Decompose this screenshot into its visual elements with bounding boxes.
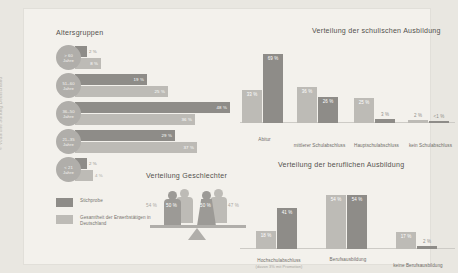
age-circle-line2: Jahre [63,114,74,119]
vocational-bar-stichprobe: 18 % [256,231,276,249]
legend-swatch-stichprobe [56,198,73,207]
vocational-bar-group: 18 % 41 % [256,189,300,249]
seesaw-fulcrum [188,228,206,240]
age-bar-stichprobe: 29 % [75,130,175,141]
age-bar-gesamtheit: 25 % [75,86,168,97]
male-value-gesamtheit: 54 % [146,203,157,208]
vocational-bar-value: 41 % [282,210,293,215]
age-bar-group: 19 % 25 % [75,74,168,98]
school-bar-gesamtheit: 3 % [375,119,395,123]
age-bar-value: 29 % [162,133,175,138]
vocational-bar-gesamtheit: 2 % [417,246,437,249]
age-bar-value: 2 % [89,49,100,54]
age-row: 48 % 36 % 36–50 Jahre [56,101,231,126]
school-chart: 33 % 69 % Abitur 36 % 26 % mittler [240,53,455,145]
school-education-panel: Verteilung der schulischen Ausbildung 33… [240,27,455,145]
age-bar-stichprobe: 48 % [75,102,230,113]
age-bar-gesamtheit: 36 % [75,114,195,125]
school-bar-group: 36 % 26 % [297,53,341,123]
school-bar-value: 69 % [268,56,279,61]
vocational-bar-value: 54 % [331,197,342,202]
infographic-card: Altersgruppen 2 % 8 % > 60 Jahre [24,9,430,264]
male-value-stichprobe: 50 % [166,203,177,208]
vocational-bar-value: 17 % [401,234,412,239]
vocational-x-label: keine Berufsausbildung [388,263,448,269]
school-bar-gesamtheit: 26 % [318,97,338,123]
school-bar-gesamtheit: <1 % [429,121,449,123]
age-bar-group: 29 % 37 % [75,130,197,154]
age-circle: 21–35 Jahre [56,129,81,154]
school-bar-gesamtheit: 69 % [263,54,283,123]
vocational-x-label: Berufsausbildung [318,257,378,263]
age-bar-value: 2 % [89,161,100,166]
vocational-bar-stichprobe: 17 % [396,232,416,249]
school-x-label: mittlerer Schulabschluss [292,143,347,149]
vocational-education-panel: Verteilung der beruflichen Ausbildung 18… [240,161,455,273]
vocational-bar-gesamtheit: 54 % [347,195,367,249]
age-bar-value: 8 % [90,61,101,66]
school-bar-group: 2 % <1 % [408,53,452,123]
copyright-notice: © Vodafone Stiftung Deutschland [0,30,3,150]
school-bar-group: 33 % 69 % [242,53,286,123]
school-bar-value: 33 % [247,92,258,97]
school-bar-group: 25 % 3 % [354,53,398,123]
gender-title: Verteilung Geschlechter [146,172,227,180]
school-bar-value: <1 % [434,114,445,119]
age-row: 19 % 25 % 51–60 Jahre [56,73,231,98]
age-groups-panel: Altersgruppen 2 % 8 % > 60 Jahre [56,29,231,169]
age-circle: 36–50 Jahre [56,101,81,126]
vocational-bar-stichprobe: 54 % [326,195,346,249]
age-circle: > 60 Jahre [56,45,81,70]
age-bar-value: 37 % [184,145,197,150]
school-x-label: kein Schulabschluss [403,143,458,149]
vocational-education-title: Verteilung der beruflichen Ausbildung [278,161,404,169]
age-bar-value: 25 % [155,89,168,94]
age-bar-value: 48 % [217,105,230,110]
vocational-bar-group: 54 % 54 % [326,189,370,249]
school-bar-stichprobe: 33 % [242,90,262,123]
age-bar-gesamtheit: 37 % [75,142,197,153]
vocational-bar-value: 2 % [423,239,431,244]
age-groups-title: Altersgruppen [56,29,103,37]
school-bar-stichprobe: 25 % [354,98,374,123]
school-bar-value: 2 % [414,113,422,118]
legend-swatch-gesamtheit [56,215,73,224]
age-circle-line2: Jahre [63,170,74,175]
vocational-x-label-main: Hochschulabschluss [257,258,300,263]
vocational-bar-value: 54 % [352,197,363,202]
age-circle-line2: Jahre [63,58,74,63]
school-education-title: Verteilung der schulischen Ausbildung [312,27,441,35]
age-row: 2 % 8 % > 60 Jahre [56,45,231,70]
age-bar-value: 36 % [182,117,195,122]
age-circle-line2: Jahre [63,142,74,147]
legend-label-stichprobe: Stichprobe [80,198,103,204]
age-bar-value: 19 % [134,77,147,82]
school-x-label: Abitur [237,137,292,143]
age-circle: 51–60 Jahre [56,73,81,98]
age-bar-value: 4 % [95,173,106,178]
vocational-bar-value: 18 % [261,233,272,238]
school-bar-stichprobe: 2 % [408,120,428,123]
school-bar-value: 36 % [302,89,313,94]
vocational-bar-group: 17 % 2 % [396,189,440,249]
vocational-bar-gesamtheit: 41 % [277,208,297,249]
school-bar-stichprobe: 36 % [297,87,317,123]
school-bar-value: 25 % [359,100,370,105]
age-bar-group: 48 % 36 % [75,102,230,126]
gender-distribution-panel: Verteilung Geschlechter 54 % 50 % 50 [142,172,254,257]
vocational-chart: 18 % 41 % Hochschulabschluss (davon 3% m… [240,181,455,273]
female-value-stichprobe: 50 % [200,203,211,208]
school-bar-value: 26 % [323,99,334,104]
school-x-label: Hauptschulabschluss [349,143,404,149]
age-circle: < 21 Jahre [56,157,81,182]
vocational-x-label-sub: (davon 3% mit Promotion) [246,264,312,269]
age-circle-line2: Jahre [63,86,74,91]
female-value-gesamtheit: 47 % [228,203,239,208]
age-bar-stichprobe: 19 % [75,74,147,85]
age-row: 29 % 37 % 21–35 Jahre [56,129,231,154]
vocational-x-label: Hochschulabschluss (davon 3% mit Promoti… [246,258,312,269]
school-bar-value: 3 % [381,112,389,117]
